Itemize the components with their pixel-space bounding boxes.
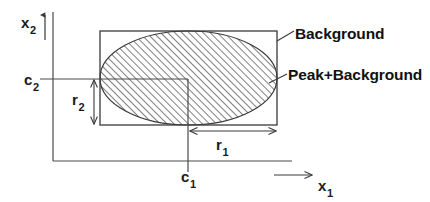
x1-axis-label-sub: 1 [327,187,333,199]
x1-axis-label-base: x [318,177,327,194]
r2-label-sub: 2 [79,101,85,113]
c1-label-base: c [181,168,190,185]
x1-axis-label: x1 [318,178,333,197]
background-callout-label: Background [295,26,384,42]
x2-axis-label-base: x [21,14,30,31]
r1-label-sub: 1 [223,146,229,158]
r2-label: r2 [72,92,84,111]
c1-label: c1 [181,169,196,188]
peak-background-callout-label: Peak+Background [288,67,422,83]
r1-label: r1 [216,137,228,156]
c2-label-base: c [24,71,33,88]
x2-axis-label: x2 [21,15,36,34]
c2-label: c2 [24,72,39,91]
r2-label-base: r [72,91,78,108]
x2-axis-label-sub: 2 [30,24,36,36]
r1-label-base: r [216,136,222,153]
c1-label-sub: 1 [190,178,196,190]
figure-canvas: x2 x1 c2 c1 r2 r1 Background Peak+Backgr… [0,0,430,202]
c2-label-sub: 2 [33,81,39,93]
background-callout-leader [277,31,294,41]
